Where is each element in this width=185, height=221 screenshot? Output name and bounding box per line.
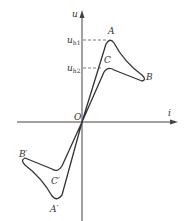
- u-i-characteristic-diagram: u i O uh1 uh2 A C B B′ C′ A′: [0, 0, 185, 221]
- uh2-label: uh2: [67, 63, 81, 74]
- point-b-label: B: [145, 72, 153, 82]
- positive-loop-curve: [82, 40, 145, 122]
- origin-label: O: [74, 112, 82, 122]
- i-axis-label: i: [168, 108, 171, 118]
- point-c-label: C: [104, 55, 111, 65]
- uh1-label: uh1: [67, 35, 80, 46]
- point-c-prime-label: C′: [51, 176, 60, 186]
- i-axis: i: [17, 108, 178, 125]
- point-a-label: A: [107, 26, 115, 36]
- u-axis-arrow-icon: [80, 10, 85, 18]
- u-axis-label: u: [72, 9, 78, 19]
- negative-loop-curve: [23, 122, 83, 199]
- point-a-prime-label: A′: [49, 204, 59, 214]
- i-axis-arrow-icon: [170, 120, 178, 125]
- point-b-prime-label: B′: [18, 149, 28, 159]
